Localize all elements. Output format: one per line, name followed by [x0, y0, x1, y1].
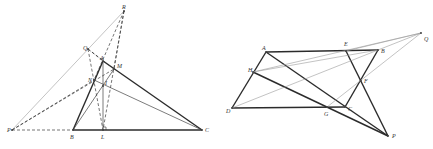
label-Q: Q	[83, 45, 88, 51]
label-Q: Q	[424, 36, 429, 42]
quadrilateral-figure: AEBQHFDGCP	[225, 32, 429, 139]
geometry-diagram: RQAMNIPBLC AEBQHFDGCP	[0, 0, 433, 149]
point-P	[387, 135, 389, 137]
label-G: G	[324, 111, 329, 117]
point-F	[360, 80, 362, 82]
point-B	[72, 129, 74, 131]
label-C: C	[205, 127, 210, 133]
point-R	[123, 10, 125, 12]
label-A: A	[99, 55, 104, 61]
label-F: F	[363, 78, 368, 84]
segment-RN	[94, 11, 124, 80]
segment-PN	[12, 80, 94, 130]
point-A	[265, 51, 267, 53]
triangle-figure: RQAMNIPBLC	[6, 4, 210, 140]
point-P	[11, 129, 13, 131]
segment-HB	[253, 50, 378, 72]
segment-DA	[232, 52, 266, 108]
label-I: I	[104, 80, 108, 86]
label-H: H	[247, 67, 253, 73]
label-B: B	[381, 48, 385, 54]
label-B: B	[70, 134, 74, 140]
label-A: A	[261, 45, 266, 51]
point-B	[377, 49, 379, 51]
segment-RL	[103, 11, 124, 130]
point-C	[201, 129, 203, 131]
segment-PM	[12, 69, 114, 130]
segment-AB	[266, 50, 378, 52]
point-D	[231, 107, 233, 109]
label-L: L	[100, 134, 105, 140]
point-C	[344, 106, 346, 108]
segment-HP	[253, 72, 388, 136]
segment-AC	[103, 61, 202, 130]
point-G	[326, 106, 328, 108]
label-N: N	[87, 77, 93, 83]
label-E: E	[343, 41, 348, 47]
label-D: D	[225, 108, 231, 114]
point-N	[93, 79, 95, 81]
label-P: P	[6, 127, 11, 133]
label-P: P	[391, 133, 396, 139]
segment-BM	[73, 69, 114, 130]
point-I	[102, 85, 104, 87]
label-R: R	[121, 4, 126, 10]
point-M	[113, 68, 115, 70]
point-E	[345, 50, 347, 52]
segment-PR	[12, 11, 124, 130]
label-M: M	[116, 63, 123, 69]
segment-AB	[73, 61, 103, 130]
point-L	[102, 129, 104, 131]
segment-DB	[232, 50, 378, 108]
point-Q	[420, 32, 422, 34]
